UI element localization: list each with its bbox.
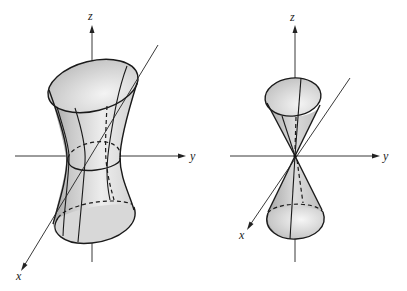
cone-figure: z y x [230,10,389,262]
z-axis-label: z [289,10,295,24]
x-axis-arrow-icon [247,222,254,231]
z-axis-arrow-icon [90,25,95,33]
y-axis-arrow-icon [372,154,380,159]
hyperboloid-figure: z y x [15,9,196,283]
z-axis-label: z [87,9,93,23]
y-axis-arrow-icon [178,154,186,159]
y-axis-label: y [382,149,389,163]
y-axis-label: y [189,149,196,163]
x-axis-arrow-icon [21,263,28,272]
x-axis-label: x [15,269,22,283]
z-axis-arrow-icon [293,25,298,33]
x-axis-label: x [238,228,245,242]
cone-apex [293,154,296,157]
quadric-surfaces-diagram: z y x z y x [0,0,407,291]
